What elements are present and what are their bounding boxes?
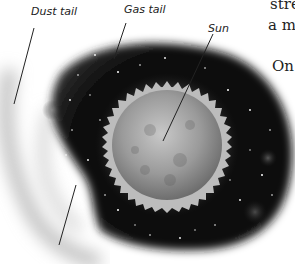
- body-text-line-3: On: [272, 56, 294, 76]
- body-text-line-2: a m: [268, 15, 295, 35]
- comet-illustration: Dust tail Gas tail Sun: [0, 0, 295, 264]
- comet-diagram-graphic: [0, 0, 295, 264]
- body-text-line-1: stre: [270, 0, 295, 14]
- dust-tail-label: Dust tail: [31, 5, 77, 18]
- sun-label: Sun: [208, 22, 229, 35]
- gas-tail-label: Gas tail: [124, 3, 166, 16]
- dust-tail-leader: [14, 28, 34, 104]
